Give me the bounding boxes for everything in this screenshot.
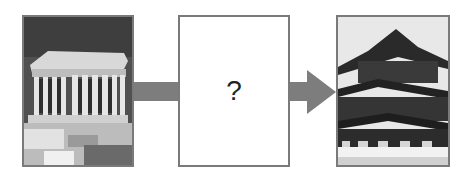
connector-bar-left (134, 82, 178, 101)
unknown-step-box: ? (178, 15, 290, 167)
pagoda-icon (338, 17, 448, 165)
parthenon-photo (22, 15, 134, 167)
question-mark: ? (226, 75, 242, 107)
connector-bar-right (290, 82, 308, 101)
classical-temple-icon (24, 17, 132, 165)
pagoda-photo (336, 15, 450, 167)
diagram-canvas: ? (0, 0, 467, 178)
arrow-right-icon (307, 70, 336, 114)
